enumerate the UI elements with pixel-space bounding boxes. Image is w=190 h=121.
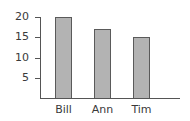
x-tick-label: Ann <box>86 104 120 116</box>
y-tick-mark <box>35 17 40 18</box>
bar-tim <box>133 37 150 98</box>
bar-ann <box>94 29 111 98</box>
y-tick-mark <box>35 78 40 79</box>
bar-bill <box>55 17 72 98</box>
x-tick-label: Tim <box>125 104 159 116</box>
y-tick-mark <box>35 58 40 59</box>
y-axis <box>40 17 41 99</box>
x-axis <box>40 98 180 99</box>
bar-chart: 5101520 BillAnnTim <box>0 0 190 121</box>
y-tick-label: 5 <box>3 72 29 84</box>
y-tick-label: 10 <box>3 52 29 64</box>
y-tick-label: 15 <box>3 31 29 43</box>
y-tick-mark <box>35 37 40 38</box>
x-tick-label: Bill <box>47 104 81 116</box>
y-tick-label: 20 <box>3 11 29 23</box>
